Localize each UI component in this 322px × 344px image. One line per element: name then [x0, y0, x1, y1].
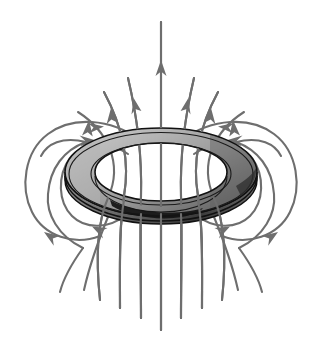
magnetic-field-diagram: Line drawing of a flat circular ring (cu… — [0, 0, 322, 344]
arrow-head-right-outer-bottom — [262, 232, 278, 246]
field-diagram-svg — [0, 0, 322, 344]
arrow-head-left-outer-bottom — [44, 232, 60, 246]
